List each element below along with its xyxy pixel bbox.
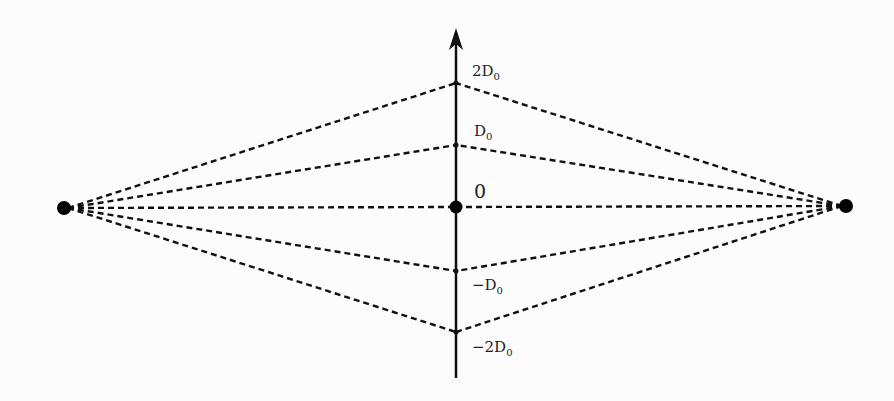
- dashed-ray: [68, 208, 456, 271]
- tick-point: [454, 330, 459, 335]
- dashed-ray: [456, 206, 842, 332]
- level-label: 0: [474, 180, 486, 202]
- left-source-point: [57, 201, 71, 215]
- dashed-ray: [68, 207, 456, 208]
- tick-point: [454, 81, 459, 86]
- diagram-canvas: 2D0D00−D0−2D0: [0, 0, 894, 401]
- level-label: −2D0: [472, 338, 513, 358]
- ray-diagram: 2D0D00−D0−2D0: [0, 0, 894, 401]
- dashed-ray: [456, 145, 842, 206]
- level-label: D0: [474, 122, 492, 142]
- right-source-point: [839, 199, 853, 213]
- level-label: 2D0: [472, 62, 500, 82]
- tick-point: [454, 143, 459, 148]
- level-label: −D0: [472, 276, 503, 296]
- axis-labels: 2D0D00−D0−2D0: [472, 62, 513, 358]
- dashed-ray: [456, 206, 842, 271]
- dashed-ray: [68, 83, 456, 208]
- dashed-ray: [68, 208, 456, 332]
- origin-point: [450, 201, 463, 214]
- dashed-ray: [68, 145, 456, 208]
- tick-point: [454, 269, 459, 274]
- dashed-ray: [456, 83, 842, 206]
- dashed-ray: [456, 206, 842, 207]
